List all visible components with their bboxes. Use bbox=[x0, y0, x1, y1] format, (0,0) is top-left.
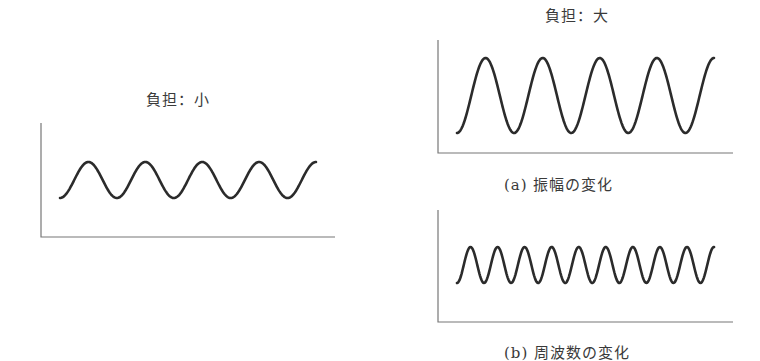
figure-canvas bbox=[0, 0, 760, 361]
large-load-title: 負担：大 bbox=[545, 4, 609, 25]
small-load-title: 負担：小 bbox=[146, 88, 210, 109]
frequency-chart bbox=[438, 210, 733, 322]
amplitude-change-waveform bbox=[457, 58, 714, 133]
frequency-change-waveform bbox=[457, 247, 714, 283]
small-load-waveform bbox=[60, 162, 316, 198]
large-load-chart bbox=[438, 40, 733, 153]
small-load-chart bbox=[41, 123, 335, 237]
amplitude-caption: (a) 振幅の変化 bbox=[504, 173, 613, 194]
frequency-caption: (b) 周波数の変化 bbox=[504, 341, 630, 361]
